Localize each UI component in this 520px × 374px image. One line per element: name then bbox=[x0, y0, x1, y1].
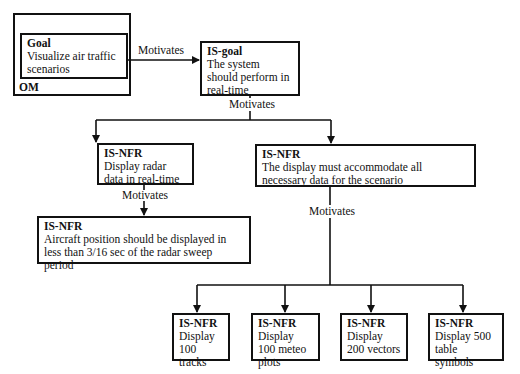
nfr-display-all-text: The display must accommodate all necessa… bbox=[262, 161, 469, 187]
is-goal-node[interactable]: IS-goal The system should perform in rea… bbox=[200, 41, 300, 96]
leaf-title: IS-NFR bbox=[435, 317, 497, 330]
goal-title: Goal bbox=[27, 37, 121, 50]
leaf-title: IS-NFR bbox=[258, 317, 313, 330]
leaf-title: IS-NFR bbox=[179, 317, 223, 330]
leaf-text: Display 200 vectors bbox=[347, 330, 401, 356]
edge-label-display-leaves: Motivates bbox=[309, 205, 355, 218]
om-label: OM bbox=[19, 81, 39, 93]
leaf-node-meteo[interactable]: IS-NFR Display 100 meteo plots bbox=[251, 313, 320, 361]
nfr-aircraft-text: Aircraft position should be displayed in… bbox=[44, 233, 244, 272]
nfr-radar-text: Display radar data in real-time bbox=[104, 160, 187, 186]
nfr-aircraft-node[interactable]: IS-NFR Aircraft position should be displ… bbox=[37, 216, 251, 264]
goal-text: Visualize air traffic scenarios bbox=[27, 50, 121, 76]
leaf-text: Display 100 meteo plots bbox=[258, 330, 313, 369]
nfr-radar-node[interactable]: IS-NFR Display radar data in real-time bbox=[97, 143, 194, 185]
edge-label-goal-isgoal: Motivates bbox=[138, 44, 184, 57]
is-goal-text: The system should perform in real-time bbox=[207, 58, 293, 97]
leaf-title: IS-NFR bbox=[347, 317, 401, 330]
leaf-node-table-symbols[interactable]: IS-NFR Display 500 table symbols bbox=[428, 313, 504, 361]
edge-label-radar-aircraft: Motivates bbox=[122, 189, 168, 202]
leaf-node-tracks[interactable]: IS-NFR Display 100 tracks bbox=[172, 313, 230, 361]
is-goal-title: IS-goal bbox=[207, 45, 293, 58]
nfr-aircraft-title: IS-NFR bbox=[44, 220, 244, 233]
leaf-text: Display 500 table symbols bbox=[435, 330, 497, 369]
nfr-display-all-title: IS-NFR bbox=[262, 148, 469, 161]
goal-node[interactable]: Goal Visualize air traffic scenarios bbox=[20, 33, 128, 79]
edge-label-isgoal-nfrs: Motivates bbox=[229, 98, 275, 111]
nfr-radar-title: IS-NFR bbox=[104, 147, 187, 160]
leaf-node-vectors[interactable]: IS-NFR Display 200 vectors bbox=[340, 313, 408, 361]
leaf-text: Display 100 tracks bbox=[179, 330, 223, 369]
nfr-display-all-node[interactable]: IS-NFR The display must accommodate all … bbox=[255, 144, 476, 187]
